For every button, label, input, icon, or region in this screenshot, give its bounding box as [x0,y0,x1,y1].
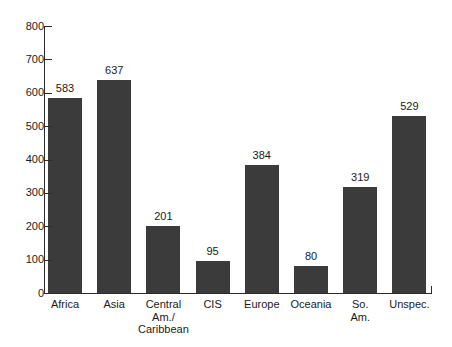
y-tick-label: 500 [8,121,44,132]
bar[interactable] [48,98,82,293]
bar-group: 583 [48,26,82,293]
x-axis-label-line: Caribbean [133,323,193,336]
y-tick-label: 700 [8,54,44,65]
x-axis-label-line: Am. [330,311,390,324]
bar-value-label: 529 [400,101,418,112]
y-tick-mark [45,160,52,161]
x-axis-label-line: Unspec. [379,298,439,311]
y-tick-mark [45,193,52,194]
bar-value-label: 583 [56,83,74,94]
bar-chart: 8007006005004003002001000 58363720195384… [0,0,452,347]
bar[interactable] [146,226,180,293]
x-axis-line [44,293,432,294]
y-tick-mark [45,126,52,127]
y-tick-mark [45,260,52,261]
plot-area: 5836372019538480319529 [44,26,432,293]
bar-value-label: 95 [206,246,218,257]
x-axis-labels: AfricaAsiaCentralAm./CaribbeanCISEuropeO… [44,298,432,347]
bar-group: 384 [245,26,279,293]
y-tick-mark [45,26,52,27]
x-axis-category-label: Unspec. [379,298,439,311]
y-tick-label: 100 [8,254,44,265]
y-axis: 8007006005004003002001000 [0,0,44,347]
y-tick-mark [45,226,52,227]
bar[interactable] [245,165,279,293]
bar-value-label: 319 [351,172,369,183]
y-tick-label: 400 [8,154,44,165]
bar-value-label: 201 [154,211,172,222]
bar-group: 529 [392,26,426,293]
bar[interactable] [97,80,131,293]
y-tick-mark [45,93,52,94]
y-tick-label: 800 [8,21,44,32]
bar-group: 95 [196,26,230,293]
bar[interactable] [343,187,377,293]
y-tick-label: 300 [8,187,44,198]
x-axis-label-line: Am./ [133,311,193,324]
y-tick-mark [45,59,52,60]
bar-group: 319 [343,26,377,293]
bar-group: 80 [294,26,328,293]
bar-group: 637 [97,26,131,293]
y-tick-label: 200 [8,221,44,232]
bar-value-label: 384 [253,150,271,161]
y-tick-label: 600 [8,87,44,98]
bar[interactable] [294,266,328,293]
chart-title [28,0,438,2]
bar-value-label: 80 [305,251,317,262]
bar[interactable] [392,116,426,293]
bar-group: 201 [146,26,180,293]
y-tick-label: 0 [8,288,44,299]
bar[interactable] [196,261,230,293]
bar-value-label: 637 [105,65,123,76]
